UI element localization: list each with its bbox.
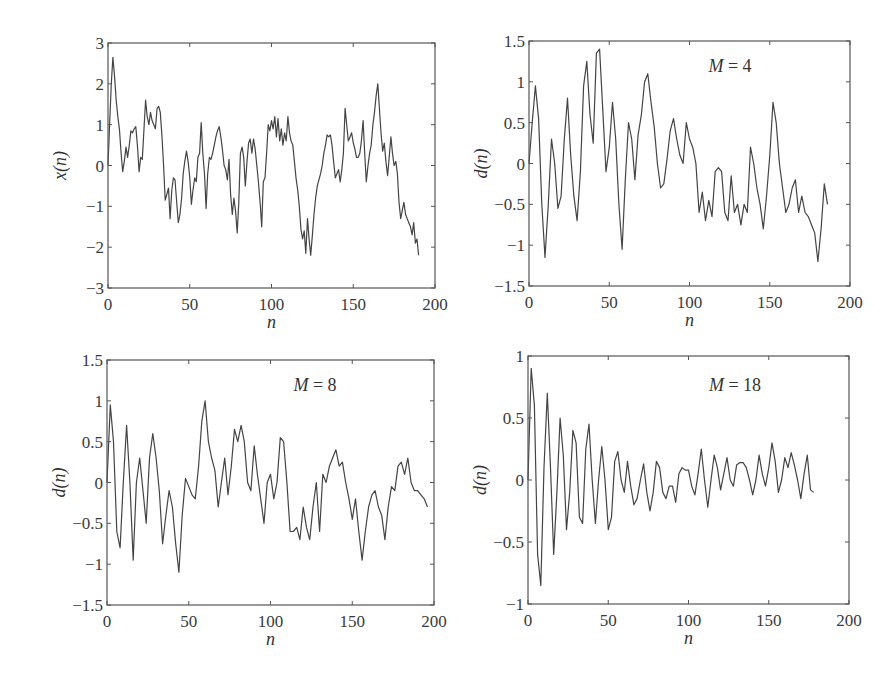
panel-annotation: M = 4 [707, 56, 751, 76]
y-tick-label: −0.5 [493, 533, 524, 552]
data-line [107, 401, 428, 573]
x-tick-label: 200 [421, 612, 447, 631]
x-tick-label: 150 [757, 293, 783, 312]
y-tick-label: 1 [516, 347, 525, 366]
y-axis-label: d(n) [49, 468, 70, 498]
y-tick-label: 3 [96, 34, 105, 53]
x-tick-label: 0 [103, 612, 112, 631]
y-tick-label: −1.5 [72, 596, 103, 615]
y-tick-label: 2 [96, 75, 105, 94]
axes-frame [528, 356, 849, 604]
y-tick-label: 0 [95, 474, 104, 493]
y-tick-label: 0.5 [503, 409, 524, 428]
y-tick-label: −2 [86, 238, 104, 257]
data-line [529, 49, 828, 261]
y-tick-label: 0 [96, 157, 105, 176]
chart-panel-bottom-left: 0501001502001.510.50−0.5−1−1.5nd(n)M = 8 [49, 351, 447, 649]
data-line [108, 57, 419, 255]
y-tick-label: −1 [506, 595, 524, 614]
x-tick-label: 50 [180, 612, 197, 631]
x-tick-label: 200 [836, 611, 862, 630]
x-tick-label: 50 [600, 611, 617, 630]
x-tick-label: 200 [837, 293, 863, 312]
x-axis-label: n [685, 310, 694, 330]
y-tick-label: 0.5 [82, 433, 103, 452]
x-axis-label: n [266, 629, 275, 649]
x-tick-label: 200 [422, 295, 448, 314]
x-tick-label: 150 [756, 611, 782, 630]
y-tick-label: −0.5 [494, 195, 525, 214]
x-tick-label: 0 [104, 295, 113, 314]
y-tick-label: −1 [507, 236, 525, 255]
y-tick-label: −3 [86, 279, 104, 298]
x-tick-label: 150 [341, 295, 367, 314]
x-tick-label: 50 [601, 293, 618, 312]
y-tick-label: 1 [95, 392, 104, 411]
x-axis-label: n [684, 628, 693, 648]
panel-annotation: M = 8 [292, 375, 336, 395]
y-tick-label: −1 [85, 555, 103, 574]
panel-annotation: M = 18 [708, 375, 761, 395]
y-axis-label: d(n) [471, 149, 492, 179]
y-tick-label: 1.5 [504, 32, 525, 51]
data-line [528, 368, 814, 585]
y-tick-label: −0.5 [72, 514, 103, 533]
axes-frame [529, 41, 850, 286]
chart-panel-top-right: 0501001502001.510.50−0.5−1−1.5nd(n)M = 4 [471, 32, 863, 330]
chart-panel-bottom-right: 05010015020010.50−0.5−1nd(n)M = 18 [470, 347, 862, 648]
x-tick-label: 0 [524, 611, 533, 630]
x-tick-label: 50 [181, 295, 198, 314]
y-tick-label: 0.5 [504, 114, 525, 133]
y-tick-label: 0 [516, 471, 525, 490]
y-tick-label: 1 [517, 73, 526, 92]
y-axis-label: x(n) [50, 151, 71, 181]
x-axis-label: n [267, 312, 276, 332]
y-tick-label: 1.5 [82, 351, 103, 370]
axes-frame [107, 360, 434, 605]
chart-panel-top-left: 0501001502003210−1−2−3nx(n) [50, 34, 448, 332]
y-axis-label: d(n) [470, 465, 491, 495]
figure: 0501001502003210−1−2−3nx(n)0501001502001… [0, 0, 896, 682]
x-tick-label: 0 [525, 293, 534, 312]
y-tick-label: −1.5 [494, 277, 525, 296]
y-tick-label: 1 [96, 116, 105, 135]
y-tick-label: 0 [517, 155, 526, 174]
x-tick-label: 150 [340, 612, 366, 631]
y-tick-label: −1 [86, 197, 104, 216]
